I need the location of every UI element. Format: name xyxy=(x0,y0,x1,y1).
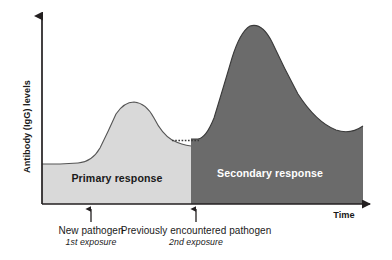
secondary-response-label: Secondary response xyxy=(217,167,323,179)
chart-canvas: Antibody (IgG) levels Time Primary respo… xyxy=(0,0,392,260)
antibody-response-chart: Antibody (IgG) levels Time Primary respo… xyxy=(0,0,392,260)
second-exposure-label-main: Previously encountered pathogen xyxy=(121,225,272,236)
primary-response-fill xyxy=(42,102,191,204)
first-exposure-marker: New pathogen 1st exposure xyxy=(58,209,123,247)
second-exposure-label-sub: 2nd exposure xyxy=(168,237,223,247)
first-exposure-label-sub: 1st exposure xyxy=(66,237,117,247)
primary-response-area xyxy=(42,102,191,204)
y-axis-label: Antibody (IgG) levels xyxy=(22,80,32,173)
x-axis-label: Time xyxy=(333,210,354,220)
first-exposure-label-main: New pathogen xyxy=(58,225,123,236)
second-exposure-marker: Previously encountered pathogen 2nd expo… xyxy=(121,209,272,247)
primary-response-label: Primary response xyxy=(71,172,162,184)
